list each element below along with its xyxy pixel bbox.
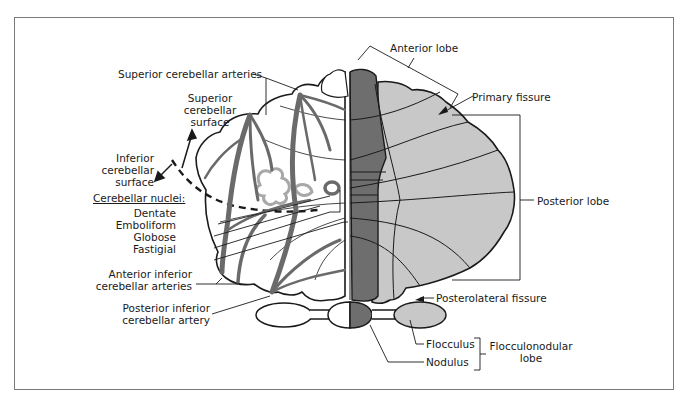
label-flocculonodular-lobe: Flocculonodular lobe	[486, 340, 576, 364]
label-nucleus-fastigial: Fastigial	[100, 243, 176, 255]
label-flocculus: Flocculus	[426, 338, 475, 350]
label-anterior-inferior-arteries: Anterior inferior cerebellar arteries	[92, 268, 192, 292]
surface-arrows	[155, 130, 196, 181]
label-nucleus-emboliform: Emboliform	[100, 219, 176, 231]
flocculonodular-lobe	[256, 302, 446, 328]
label-superior-cerebellar-arteries: Superior cerebellar arteries	[118, 68, 252, 80]
label-superior-surface: Superior cerebellar surface	[175, 92, 245, 128]
label-nucleus-globose: Globose	[100, 231, 176, 243]
label-posterolateral-fissure: Posterolateral fissure	[436, 292, 547, 304]
label-anterior-lobe: Anterior lobe	[390, 42, 458, 54]
label-inferior-surface: Inferior cerebellar surface	[90, 152, 154, 188]
label-posterior-inferior-artery: Posterior inferior cerebellar artery	[110, 302, 210, 326]
label-posterior-lobe: Posterior lobe	[537, 195, 609, 207]
label-nucleus-dentate: Dentate	[100, 207, 176, 219]
label-nodulus: Nodulus	[426, 356, 469, 368]
label-primary-fissure: Primary fissure	[472, 91, 551, 103]
label-cerebellar-nuclei-heading: Cerebellar nuclei:	[93, 192, 185, 204]
